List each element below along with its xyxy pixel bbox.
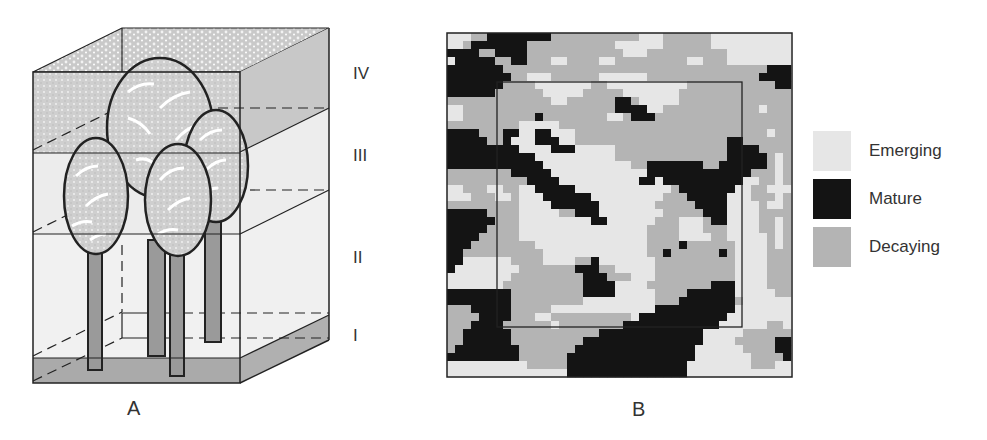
forest-stand-block	[33, 28, 329, 383]
trunk	[148, 240, 165, 356]
layer-label-ii: II	[353, 248, 362, 268]
legend-item-emerging: Emerging	[813, 131, 983, 171]
legend-swatch-emerging	[813, 131, 851, 171]
legend-item-decaying: Decaying	[813, 227, 983, 267]
front-layer-ground	[33, 358, 240, 383]
trunk	[205, 220, 221, 342]
crown	[145, 144, 211, 256]
legend-label-emerging: Emerging	[869, 141, 942, 161]
layer-label-iii: III	[353, 146, 367, 166]
legend-swatch-mature	[813, 179, 851, 219]
legend-label-mature: Mature	[869, 189, 922, 209]
panel-label-a: A	[127, 397, 140, 420]
layer-label-i: I	[353, 326, 358, 346]
legend-label-decaying: Decaying	[869, 237, 940, 257]
layer-label-iv: IV	[353, 64, 369, 84]
patch-mosaic-map	[447, 33, 791, 377]
legend-item-mature: Mature	[813, 179, 983, 219]
trunk	[88, 252, 102, 370]
panel-label-b: B	[632, 398, 645, 421]
figure-canvas	[0, 0, 987, 440]
legend-swatch-decaying	[813, 227, 851, 267]
